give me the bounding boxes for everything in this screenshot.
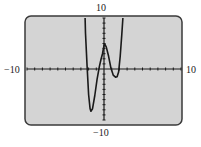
graphing-calculator-screen bbox=[0, 0, 201, 147]
